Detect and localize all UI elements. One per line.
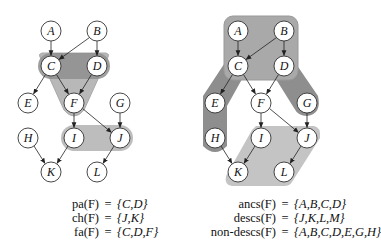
svg-text:A: A	[233, 24, 242, 38]
right-formulas: ancs(F) = {A,B,C,D} descs(F) = {J,K,L,M}…	[209, 197, 381, 239]
svg-text:C: C	[234, 59, 243, 73]
svg-text:B: B	[280, 24, 288, 38]
svg-text:J: J	[117, 131, 123, 145]
edge-H-K	[34, 146, 45, 164]
svg-text:H: H	[23, 131, 34, 145]
svg-text:J: J	[304, 131, 310, 145]
node-J: J	[110, 128, 130, 148]
formula-eq: =	[99, 197, 117, 211]
node-H: H	[18, 128, 38, 148]
node-F: F	[251, 93, 271, 113]
edge-I-K	[57, 146, 68, 164]
formula-lhs: pa(F)	[62, 197, 99, 211]
node-I: I	[64, 128, 84, 148]
formula-eq: =	[276, 211, 294, 225]
formula-rhs: {A,B,C,D}	[294, 197, 346, 211]
formula-lhs: non-descs(F)	[209, 225, 276, 239]
node-L: L	[274, 162, 294, 182]
svg-text:L: L	[280, 165, 288, 179]
formula-rhs: {C,D,F}	[117, 225, 158, 239]
formula-eq: =	[99, 225, 117, 239]
node-E: E	[205, 93, 225, 113]
node-G: G	[297, 93, 317, 113]
formula-lhs: ancs(F)	[209, 197, 276, 211]
node-A: A	[41, 21, 61, 41]
formula-lhs: ch(F)	[62, 211, 99, 225]
formula-children: ch(F) = {J,K}	[62, 211, 158, 225]
formula-family: fa(F) = {C,D,F}	[62, 225, 158, 239]
node-D: D	[87, 56, 107, 76]
svg-text:D: D	[279, 59, 289, 73]
formula-rhs: {C,D}	[117, 197, 148, 211]
svg-text:G: G	[303, 96, 312, 110]
node-B: B	[274, 21, 294, 41]
formula-non-descendants: non-descs(F) = {A,B,C,D,E,G,H}	[209, 225, 381, 239]
node-H: H	[205, 128, 225, 148]
node-K: K	[228, 162, 248, 182]
node-K: K	[41, 162, 61, 182]
formula-ancestors: ancs(F) = {A,B,C,D}	[209, 197, 381, 211]
node-A: A	[228, 21, 248, 41]
left-panel-nodes: A B C D E F G H I J K L	[18, 21, 130, 182]
node-B: B	[87, 21, 107, 41]
svg-text:C: C	[47, 59, 56, 73]
svg-text:K: K	[233, 165, 243, 179]
node-L: L	[87, 162, 107, 182]
formula-rhs: {J,K,L,M}	[294, 211, 345, 225]
node-F: F	[64, 93, 84, 113]
svg-text:H: H	[210, 131, 221, 145]
svg-text:E: E	[210, 96, 219, 110]
node-I: I	[251, 128, 271, 148]
node-G: G	[110, 93, 130, 113]
node-E: E	[18, 93, 38, 113]
formula-descendants: descs(F) = {J,K,L,M}	[209, 211, 381, 225]
svg-text:F: F	[69, 96, 78, 110]
formula-eq: =	[276, 225, 294, 239]
svg-text:B: B	[93, 24, 101, 38]
formula-rhs: {A,B,C,D,E,G,H}	[294, 225, 381, 239]
svg-text:E: E	[23, 96, 32, 110]
formula-lhs: fa(F)	[62, 225, 99, 239]
formula-eq: =	[276, 197, 294, 211]
formula-eq: =	[99, 211, 117, 225]
formula-parents: pa(F) = {C,D}	[62, 197, 158, 211]
svg-text:L: L	[93, 165, 101, 179]
node-C: C	[41, 56, 61, 76]
left-formulas: pa(F) = {C,D} ch(F) = {J,K} fa(F) = {C,D…	[62, 197, 158, 239]
node-D: D	[274, 56, 294, 76]
svg-text:G: G	[116, 96, 125, 110]
svg-text:F: F	[256, 96, 265, 110]
node-J: J	[297, 128, 317, 148]
svg-text:A: A	[46, 24, 55, 38]
edge-H-K	[221, 146, 232, 164]
svg-text:D: D	[92, 59, 102, 73]
node-C: C	[228, 56, 248, 76]
formula-rhs: {J,K}	[117, 211, 144, 225]
edge-C-E	[34, 75, 46, 95]
svg-text:K: K	[46, 165, 56, 179]
formula-lhs: descs(F)	[209, 211, 276, 225]
